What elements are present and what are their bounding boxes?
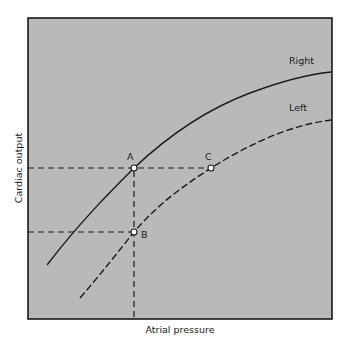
y-axis-label: Cardiac output xyxy=(13,133,24,204)
point-b-label: B xyxy=(141,229,148,240)
cardiac-function-diagram: A B C Right Left Atrial pressure Cardiac… xyxy=(0,0,350,348)
x-axis-label: Atrial pressure xyxy=(145,324,214,335)
point-a-label: A xyxy=(127,151,134,162)
point-c-marker xyxy=(208,165,214,171)
point-b-marker xyxy=(131,229,137,235)
point-c-label: C xyxy=(205,151,212,162)
right-curve-label: Right xyxy=(289,55,314,66)
left-curve-label: Left xyxy=(289,102,307,113)
point-a-marker xyxy=(131,165,137,171)
